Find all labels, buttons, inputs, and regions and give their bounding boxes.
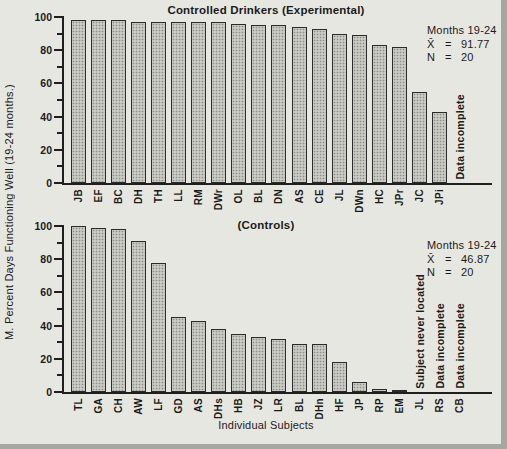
category-slot: BC (108, 189, 128, 213)
bar-slot (309, 226, 329, 392)
y-tick (54, 116, 62, 118)
category-slot: EM (390, 398, 410, 419)
bar-slot: Subject never located (410, 226, 430, 392)
bar-slot (430, 17, 450, 183)
category-slot: RP (369, 398, 389, 419)
x-axis-line (62, 392, 492, 394)
category-slot: DHn (309, 398, 329, 419)
subject-label: AS (193, 398, 204, 413)
bar-BL (292, 344, 307, 392)
bar-slot (249, 17, 269, 183)
category-slot: CB (450, 398, 470, 419)
scan-edge (501, 0, 507, 449)
subject-label: DN (273, 189, 284, 204)
bar-BL (251, 25, 266, 183)
x-axis-label: Individual Subjects (62, 419, 470, 431)
chart-title-experimental: Controlled Drinkers (Experimental) (62, 4, 470, 16)
missing-data-note: Subject never located (414, 274, 426, 389)
subject-label: BC (113, 189, 124, 204)
category-slot: LL (168, 189, 188, 213)
y-tick-label: 40 (24, 111, 52, 123)
category-slot: EF (88, 189, 108, 213)
subject-label: DWr (213, 189, 224, 210)
bar-JL (332, 34, 347, 183)
category-slot: JPr (390, 189, 410, 213)
bar-RM (191, 22, 206, 183)
bar-AW (131, 241, 146, 392)
x-axis-line (62, 183, 492, 185)
y-tick-label: 0 (24, 177, 52, 189)
subject-label: JP (354, 398, 365, 411)
category-slot: OL (229, 189, 249, 213)
missing-data-note: Data incomplete (454, 303, 466, 389)
category-slot: JC (410, 189, 430, 213)
bar-slot (209, 226, 229, 392)
y-tick-label: 0 (24, 386, 52, 398)
bar-CE (312, 29, 327, 183)
category-slot: LR (269, 398, 289, 419)
missing-data-note: Data incomplete (454, 94, 466, 180)
subject-label: DWn (354, 189, 365, 213)
missing-data-note: Data incomplete (434, 303, 446, 389)
subject-label: EF (93, 189, 104, 202)
bar-slot (269, 17, 289, 183)
bar-OL (231, 24, 246, 183)
subject-label: GA (93, 398, 104, 414)
category-slot: TH (148, 189, 168, 213)
bar-slot (189, 17, 209, 183)
y-tick-label: 20 (24, 144, 52, 156)
category-slot: AW (128, 398, 148, 419)
bar-DH (131, 22, 146, 183)
bar-slot (329, 226, 349, 392)
scan-edge (0, 444, 507, 449)
category-slot: GA (88, 398, 108, 419)
category-slot: JPi (430, 189, 450, 213)
subject-label: JPi (434, 189, 445, 205)
y-tick (54, 49, 62, 51)
category-slot: RS (430, 398, 450, 419)
y-axis-line (62, 16, 64, 183)
subject-label: AW (133, 398, 144, 415)
bar-DWr (211, 22, 226, 183)
bar-slot: Data incomplete (450, 226, 470, 392)
y-tick (54, 325, 62, 327)
category-slot: JL (410, 398, 430, 419)
bar-GA (91, 228, 106, 392)
y-tick-label: 40 (24, 320, 52, 332)
bar-slot (108, 17, 128, 183)
bar-JC (412, 92, 427, 183)
category-slot (450, 189, 470, 213)
bar-HC (372, 45, 387, 183)
bar-JB (71, 20, 86, 183)
category-slot: JP (349, 398, 369, 419)
y-axis-label: M. Percent Days Functioning Well (19-24 … (3, 62, 15, 362)
subject-label: CB (454, 398, 465, 413)
bar-AS (191, 321, 206, 392)
y-tick-label: 100 (24, 220, 52, 232)
bar-TL (71, 226, 86, 392)
bar-slot (148, 226, 168, 392)
category-slot: CH (108, 398, 128, 419)
category-slot: AS (289, 189, 309, 213)
subject-label: BL (294, 398, 305, 412)
bars-experimental: Data incomplete (62, 17, 470, 183)
scanned-bar-chart-figure: M. Percent Days Functioning Well (19-24 … (0, 0, 507, 449)
category-labels-experimental: JBEFBCDHTHLLRMDWrOLBLDNASCEJLDWnHCJPrJCJ… (62, 189, 470, 213)
bar-slot (128, 17, 148, 183)
y-tick-label: 60 (24, 286, 52, 298)
y-tick (54, 82, 62, 84)
y-tick (54, 149, 62, 151)
bar-HB (231, 334, 246, 392)
bar-slot (369, 226, 389, 392)
subject-label: DHs (213, 398, 224, 419)
bar-slot (168, 17, 188, 183)
bar-slot (289, 17, 309, 183)
bar-slot (249, 226, 269, 392)
subject-label: JL (414, 398, 425, 410)
bar-slot: Data incomplete (430, 226, 450, 392)
y-tick-label: 60 (24, 77, 52, 89)
bar-slot (349, 226, 369, 392)
bar-AS (292, 27, 307, 183)
subject-label: TH (153, 189, 164, 203)
category-slot: DN (269, 189, 289, 213)
